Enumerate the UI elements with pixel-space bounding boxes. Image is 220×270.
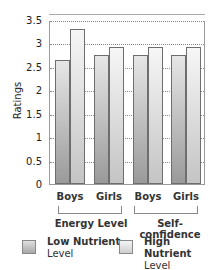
legend-swatch-high [119, 240, 133, 254]
group-bracket [134, 206, 198, 214]
bar-low [171, 55, 186, 184]
group-bracket [58, 206, 122, 214]
bar-high [148, 47, 163, 184]
category-label: Boys [130, 191, 166, 202]
gridline [50, 21, 204, 22]
bar-high [186, 47, 201, 184]
bar-high [70, 29, 85, 184]
y-tick-label: 2.5 [12, 63, 42, 73]
bar-low [133, 55, 148, 184]
legend-label-low: Low Nutrient Level [47, 236, 120, 260]
category-label: Girls [168, 191, 204, 202]
group-label: Energy Level [52, 218, 130, 229]
y-tick-label: 3.5 [12, 16, 42, 26]
bar-high [109, 47, 124, 184]
y-tick-label: 1 [12, 133, 42, 143]
legend-swatch-low [22, 240, 36, 254]
y-tick-label: 0 [12, 180, 42, 190]
category-label: Boys [52, 191, 88, 202]
plot-area [49, 21, 205, 185]
y-tick-label: 3 [12, 39, 42, 49]
y-tick-label: 0.5 [12, 157, 42, 167]
bar-low [94, 55, 109, 184]
legend-label-high: High Nutrient Level [144, 236, 220, 270]
plot-top-border [49, 14, 205, 15]
bar-low [55, 60, 70, 184]
category-label: Girls [91, 191, 127, 202]
y-axis-label: Ratings [12, 76, 23, 126]
